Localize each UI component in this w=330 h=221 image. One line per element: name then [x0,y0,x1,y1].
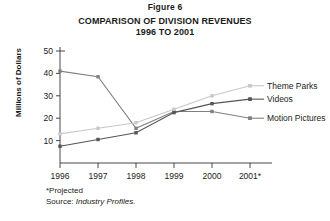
source-prefix: Source: [46,197,76,206]
data-point-marker [58,145,61,148]
x-axis-tick-label: 1998 [127,171,146,181]
source-publication-name: Industry Profiles. [76,197,136,206]
series-line [60,86,250,134]
data-point-marker [134,131,137,134]
data-point-marker [58,69,61,72]
legend-label-videos: Videos [267,94,293,104]
figure-container: Figure 6 COMPARISON OF DIVISION REVENUES… [0,0,330,221]
data-point-marker [210,110,213,113]
y-axis-tick-label: 30 [44,91,54,101]
series-line [60,71,250,128]
y-axis-tick-label: 20 [44,113,54,123]
data-point-marker [210,102,213,105]
x-axis-tick-label: 1999 [165,171,184,181]
legend-marker-theme_parks [248,84,251,87]
legend-label-motion_pictures: Motion Pictures [267,113,326,123]
source-note: Source: Industry Profiles. [46,197,135,208]
x-axis-tick-label: 2001* [239,171,262,181]
y-axis-tick-label: 50 [44,46,54,56]
series-line [60,99,250,146]
data-point-marker [96,75,99,78]
footnote-block: *Projected Source: Industry Profiles. [46,186,135,207]
x-axis-tick-label: 2000 [203,171,222,181]
data-point-marker [96,127,99,130]
x-axis-tick-label: 1997 [89,171,108,181]
data-point-marker [172,108,175,111]
data-point-marker [134,127,137,130]
y-axis-tick-label: 10 [44,136,54,146]
data-point-marker [134,121,137,124]
legend-label-theme_parks: Theme Parks [267,81,318,91]
projected-note: *Projected [46,186,135,197]
y-axis-tick-label: 40 [44,68,54,78]
legend-marker-motion_pictures [248,117,251,120]
data-point-marker [96,138,99,141]
data-point-marker [210,94,213,97]
data-point-marker [172,111,175,114]
legend-marker-videos [248,97,251,100]
data-point-marker [58,132,61,135]
x-axis-tick-label: 1996 [51,171,70,181]
